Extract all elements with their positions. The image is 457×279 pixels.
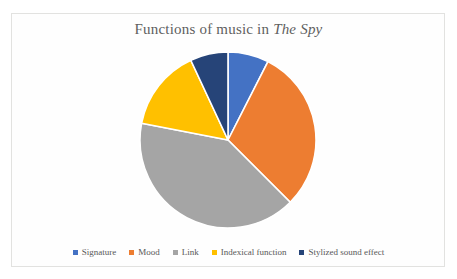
legend-swatch-icon: [73, 250, 78, 255]
legend-item-label: Link: [182, 247, 199, 257]
chart-legend: SignatureMoodLinkIndexical functionStyli…: [0, 247, 457, 257]
chart-title-work-title: The Spy: [273, 21, 322, 37]
chart-title-text: Functions of music in: [135, 21, 274, 37]
legend-item[interactable]: Mood: [129, 247, 160, 257]
legend-item[interactable]: Signature: [73, 247, 117, 257]
legend-item-label: Signature: [82, 247, 117, 257]
legend-item-label: Indexical function: [221, 247, 287, 257]
legend-swatch-icon: [299, 250, 304, 255]
legend-swatch-icon: [129, 250, 134, 255]
legend-item[interactable]: Stylized sound effect: [299, 247, 384, 257]
pie-chart: [138, 50, 318, 230]
legend-item[interactable]: Indexical function: [212, 247, 287, 257]
chart-title: Functions of music in The Spy: [0, 21, 457, 38]
legend-swatch-icon: [173, 250, 178, 255]
legend-item[interactable]: Link: [173, 247, 199, 257]
pie-chart-svg: [138, 50, 318, 230]
legend-swatch-icon: [212, 250, 217, 255]
pie-slice-group: [140, 52, 316, 228]
legend-item-label: Mood: [138, 247, 160, 257]
chart-figure: Functions of music in The Spy SignatureM…: [0, 0, 457, 279]
legend-item-label: Stylized sound effect: [308, 247, 384, 257]
